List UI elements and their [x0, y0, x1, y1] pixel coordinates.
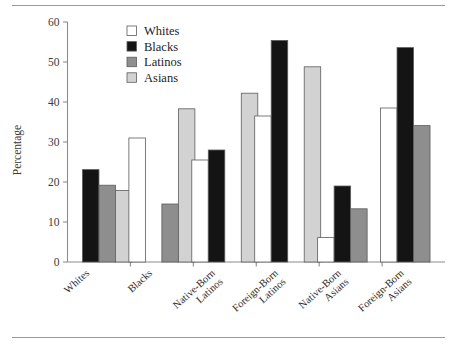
bar-whites-native-born-latinos [192, 160, 209, 262]
y-tick-label: 10 [48, 216, 60, 228]
y-tick-label: 0 [54, 256, 60, 268]
category-labels-layer: WhitesBlacksNative-BornLatinosForeign-Bo… [62, 267, 414, 322]
legend-swatch-blacks [127, 42, 137, 52]
x-category-label-group: Foreign-BornAsians [356, 267, 414, 322]
x-category-label-group: Foreign-BornLatinos [230, 267, 288, 322]
legend-swatch-asians [127, 73, 137, 83]
bar-blacks-foreign-born-asians [397, 48, 414, 262]
legend-swatch-latinos [127, 57, 137, 66]
legend-label-blacks: Blacks [144, 40, 178, 54]
y-tick-label: 40 [48, 96, 60, 108]
bar-whites-foreign-born-latinos [255, 116, 272, 262]
y-tick-label: 50 [48, 56, 60, 68]
y-tick-label: 60 [48, 16, 60, 28]
x-category-label-group: Native-BornLatinos [171, 267, 226, 319]
y-axis-title: Percentage [11, 125, 24, 175]
legend-label-asians: Asians [144, 71, 178, 85]
bar-whites-blacks [129, 138, 146, 262]
bar-latinos-foreign-born-asians [414, 126, 431, 262]
x-category-label-group: Blacks [126, 267, 155, 294]
bar-latinos-native-born-asians [351, 209, 368, 262]
bar-latinos-blacks [162, 204, 179, 262]
y-tick-label: 20 [48, 176, 60, 188]
figure-container: Percentage 0102030405060 WhitesBlacksNat… [0, 0, 458, 350]
bar-blacks-foreign-born-latinos [271, 40, 288, 262]
x-category-label-group: Whites [62, 267, 91, 295]
bar-latinos-whites [99, 185, 116, 262]
bar-asians-foreign-born-latinos [304, 67, 321, 262]
bar-whites-native-born-asians [318, 238, 335, 262]
y-tick-label: 30 [48, 136, 60, 148]
legend-swatch-whites [127, 26, 137, 36]
bar-blacks-whites [82, 170, 99, 262]
bar-chart: Percentage 0102030405060 WhitesBlacksNat… [0, 0, 458, 350]
legend-label-whites: Whites [144, 24, 180, 38]
legend-label-latinos: Latinos [144, 55, 182, 69]
legend: WhitesBlacksLatinosAsians [127, 24, 182, 85]
bar-whites-foreign-born-asians [381, 108, 398, 262]
bar-blacks-native-born-latinos [208, 150, 225, 262]
bar-blacks-native-born-asians [334, 186, 351, 262]
x-category-label-line: Blacks [126, 267, 155, 294]
x-category-label-group: Native-BornAsians [297, 267, 352, 319]
x-category-label-line: Whites [62, 267, 91, 295]
